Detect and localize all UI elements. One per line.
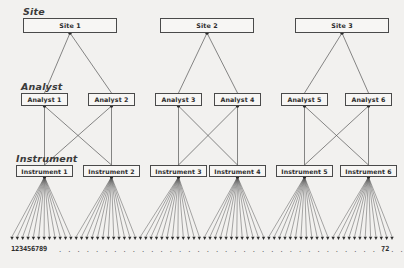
- leaf-arrowhead-38: [208, 237, 211, 240]
- leaf-trailing-dots: . . . . . . . . . . . . . . . . . . . . …: [58, 246, 404, 254]
- leaf-arrowhead-33: [182, 237, 185, 240]
- leaf-arrowhead-65: [353, 237, 356, 240]
- edge-instrument-4-leaf-38: [210, 177, 237, 237]
- edge-instrument-6-leaf-71: [369, 177, 387, 237]
- leaf-arrowhead-72: [390, 237, 393, 240]
- node-instrument-2[interactable]: Instrument 2: [83, 165, 140, 177]
- node-analyst-1[interactable]: Analyst 1: [21, 93, 68, 106]
- leaf-arrowhead-23: [128, 237, 131, 240]
- edge-instrument-1-leaf-5: [33, 177, 44, 237]
- edge-instrument-3-leaf-28: [157, 177, 179, 237]
- node-analyst-6[interactable]: Analyst 6: [345, 93, 392, 106]
- edge-instrument-4-leaf-39: [215, 177, 237, 237]
- leaf-arrowhead-67: [364, 237, 367, 240]
- leaf-arrowhead-30: [166, 237, 169, 240]
- leaf-arrowhead-48: [262, 237, 265, 240]
- leaf-arrowhead-31: [171, 237, 174, 240]
- node-instrument-3[interactable]: Instrument 3: [150, 165, 207, 177]
- edge-instrument-3-leaf-32: [178, 177, 179, 237]
- leaf-arrowhead-34: [187, 237, 190, 240]
- node-site-3[interactable]: Site 3: [295, 18, 389, 33]
- edge-instrument-4-leaf-41: [226, 177, 237, 237]
- edge-instrument-1-leaf-3: [23, 177, 45, 237]
- leaf-arrowhead-44: [240, 237, 243, 240]
- edge-instrument-3-leaf-36: [179, 177, 200, 237]
- leaf-arrowhead-35: [192, 237, 195, 240]
- leaf-arrowhead-11: [64, 237, 67, 240]
- leaf-arrowhead-1: [10, 237, 13, 240]
- leaf-arrowhead-61: [331, 237, 334, 240]
- leaf-arrowhead-27: [149, 237, 152, 240]
- edge-instrument-2-leaf-17: [98, 177, 112, 237]
- leaf-arrowhead-15: [85, 237, 88, 240]
- leaf-arrowhead-32: [176, 237, 179, 240]
- edge-instrument-3-leaf-29: [162, 177, 179, 237]
- leaf-arrowhead-14: [80, 237, 83, 240]
- node-instrument-4[interactable]: Instrument 4: [209, 165, 266, 177]
- leaf-arrowhead-59: [321, 237, 324, 240]
- leaf-arrowhead-19: [107, 237, 110, 240]
- edge-site-to-analyst-5: [305, 33, 343, 93]
- edge-instrument-4-leaf-47: [238, 177, 259, 237]
- leaf-arrowhead-63: [342, 237, 345, 240]
- edge-site-to-analyst-2: [70, 33, 112, 93]
- leaf-arrowhead-42: [230, 237, 233, 240]
- edge-instrument-4-leaf-45: [238, 177, 248, 237]
- leaf-arrowhead-21: [117, 237, 120, 240]
- edge-instrument-4-leaf-40: [221, 177, 238, 237]
- leaf-arrowhead-57: [310, 237, 313, 240]
- diagram-canvas: Site Analyst Instrument Site 1 Site 2 Si…: [0, 0, 404, 268]
- edge-site-to-analyst-3: [179, 33, 208, 93]
- leaf-arrowhead-62: [337, 237, 340, 240]
- node-analyst-2[interactable]: Analyst 2: [88, 93, 135, 106]
- node-instrument-6[interactable]: Instrument 6: [340, 165, 397, 177]
- edge-instrument-3-leaf-27: [151, 177, 178, 237]
- leaf-arrowhead-26: [144, 237, 147, 240]
- leaf-arrowhead-71: [385, 237, 388, 240]
- node-instrument-1[interactable]: Instrument 1: [16, 165, 73, 177]
- leaf-numbered-labels: 123456789: [11, 245, 47, 253]
- leaf-arrowhead-37: [203, 237, 206, 240]
- leaf-arrowhead-22: [123, 237, 126, 240]
- leaf-arrowhead-36: [198, 237, 201, 240]
- leaf-arrowhead-58: [315, 237, 318, 240]
- leaf-arrowhead-60: [326, 237, 329, 240]
- leaf-arrowhead-6: [37, 237, 40, 240]
- leaf-arrowhead-53: [289, 237, 292, 240]
- node-instrument-5[interactable]: Instrument 5: [276, 165, 333, 177]
- diagram-edges-layer: [0, 0, 404, 268]
- node-site-1[interactable]: Site 1: [23, 18, 117, 33]
- leaf-arrowhead-12: [69, 237, 72, 240]
- node-analyst-4[interactable]: Analyst 4: [214, 93, 261, 106]
- node-analyst-5[interactable]: Analyst 5: [281, 93, 328, 106]
- leaf-arrowhead-69: [374, 237, 377, 240]
- level-label-analyst: Analyst: [21, 81, 63, 92]
- edge-instrument-5-leaf-49: [269, 177, 305, 237]
- leaf-arrowhead-4: [26, 237, 29, 240]
- leaf-arrowhead-5: [32, 237, 35, 240]
- leaf-arrowhead-13: [75, 237, 78, 240]
- leaf-arrowhead-24: [133, 237, 136, 240]
- node-site-2[interactable]: Site 2: [160, 18, 254, 33]
- leaf-arrowhead-9: [53, 237, 56, 240]
- leaf-arrowhead-54: [294, 237, 297, 240]
- leaf-arrowhead-16: [91, 237, 94, 240]
- level-label-site: Site: [23, 6, 45, 17]
- leaf-end-label: 72: [381, 245, 389, 253]
- edge-instrument-6-leaf-65: [355, 177, 369, 237]
- node-analyst-3[interactable]: Analyst 3: [155, 93, 202, 106]
- edge-instrument-5-leaf-59: [305, 177, 323, 237]
- level-label-instrument: Instrument: [16, 153, 78, 164]
- leaf-arrowhead-66: [358, 237, 361, 240]
- edge-instrument-4-leaf-43: [237, 177, 238, 237]
- leaf-arrowhead-8: [48, 237, 51, 240]
- edge-instrument-3-leaf-34: [179, 177, 189, 237]
- leaf-arrowhead-28: [155, 237, 158, 240]
- leaf-arrowhead-3: [21, 237, 24, 240]
- edge-instrument-5-leaf-53: [290, 177, 304, 237]
- leaf-arrowhead-17: [96, 237, 99, 240]
- edge-instrument-6-leaf-61: [333, 177, 368, 237]
- leaf-arrowhead-51: [278, 237, 281, 240]
- edge-instrument-2-leaf-23: [112, 177, 130, 237]
- edge-instrument-1-leaf-2: [17, 177, 44, 237]
